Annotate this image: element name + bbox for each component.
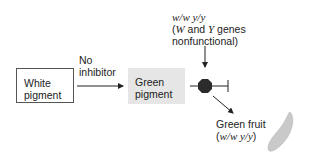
edge-label-line1: No	[79, 54, 116, 66]
blocked-enzyme-octagon-icon	[198, 79, 212, 93]
node-green-pigment-line2: pigment	[135, 88, 185, 100]
gene-w: W	[176, 23, 185, 35]
text-and: and	[185, 23, 208, 35]
outcome-line1: Green fruit	[216, 118, 266, 130]
fruit-icon	[268, 112, 293, 151]
genotype-label: w/w y/y	[172, 11, 246, 23]
node-green-pigment-line1: Green	[135, 76, 185, 88]
arrow-to-outcome	[213, 96, 233, 113]
outcome-label: Green fruit (w/w y/y)	[216, 118, 266, 142]
node-white-pigment-line1: White	[24, 77, 73, 89]
edge-label-no-inhibitor: No inhibitor	[79, 54, 116, 78]
node-green-pigment: Green pigment	[128, 68, 185, 104]
outcome-genotype: w/w y/y	[220, 130, 253, 142]
node-white-pigment-line2: pigment	[24, 89, 73, 101]
node-white-pigment: White pigment	[16, 68, 74, 103]
genotype-note: w/w y/y (W and Y genes nonfunctional)	[172, 11, 246, 47]
edge-label-line2: inhibitor	[79, 66, 116, 78]
paren-close: )	[253, 130, 257, 142]
text-genes: genes	[214, 23, 246, 35]
outcome-line2: (w/w y/y)	[216, 130, 266, 142]
genotype-desc-line3: nonfunctional)	[172, 35, 246, 47]
genotype-desc-line2: (W and Y genes	[172, 23, 246, 35]
